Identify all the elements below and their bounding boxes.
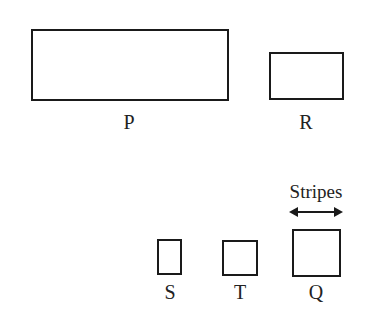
rectangle-t [222, 240, 258, 276]
label-q: Q [309, 282, 323, 302]
label-t: T [234, 282, 246, 302]
stripes-annotation: Stripes [290, 182, 343, 201]
rectangle-r [269, 52, 344, 100]
label-r: R [299, 112, 312, 132]
double-arrow-icon [288, 205, 344, 219]
rectangle-q [292, 229, 341, 277]
label-p: P [123, 112, 134, 132]
label-s: S [164, 282, 175, 302]
rectangle-s [157, 239, 182, 275]
rectangle-p [31, 29, 229, 101]
